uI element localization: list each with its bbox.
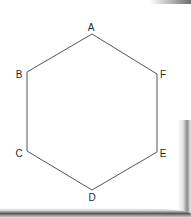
vertex-label-c: C [15,148,22,159]
vertex-label-f: F [160,69,166,80]
vertex-labels: A B C D E F [15,22,166,203]
hexagon-diagram: A B C D E F [0,0,191,218]
vertex-label-b: B [16,69,23,80]
vertex-label-d: D [88,192,95,203]
vertex-label-a: A [88,22,95,33]
vertex-label-e: E [160,148,167,159]
hexagon-shape [27,34,157,190]
